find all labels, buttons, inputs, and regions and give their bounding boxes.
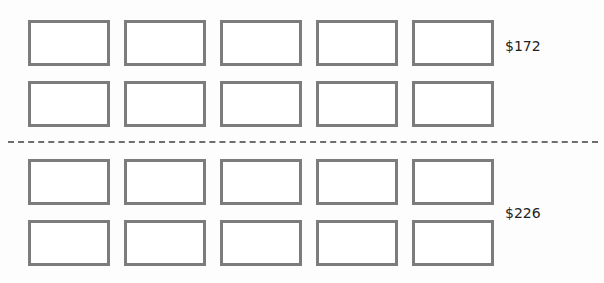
- box-2-2: [124, 81, 206, 127]
- box-4-2: [124, 220, 206, 266]
- box-2-3: [220, 81, 302, 127]
- box-3-4: [316, 159, 398, 205]
- box-2-1: [28, 81, 110, 127]
- box-2-5: [412, 81, 494, 127]
- box-3-5: [412, 159, 494, 205]
- bottom-group-price: $226: [505, 205, 541, 221]
- box-1-5: [412, 20, 494, 66]
- box-3-3: [220, 159, 302, 205]
- box-1-1: [28, 20, 110, 66]
- box-3-1: [28, 159, 110, 205]
- box-4-5: [412, 220, 494, 266]
- box-1-2: [124, 20, 206, 66]
- box-1-4: [316, 20, 398, 66]
- box-2-4: [316, 81, 398, 127]
- box-4-4: [316, 220, 398, 266]
- box-1-3: [220, 20, 302, 66]
- top-group-price: $172: [505, 38, 541, 54]
- dashed-divider: [8, 141, 598, 143]
- box-4-1: [28, 220, 110, 266]
- box-3-2: [124, 159, 206, 205]
- box-4-3: [220, 220, 302, 266]
